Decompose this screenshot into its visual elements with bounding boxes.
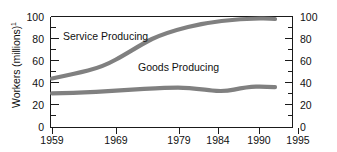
y-axis-minor-ticks-left xyxy=(51,28,56,116)
series-label-service-producing: Service Producing xyxy=(63,31,148,42)
x-axis-ticks xyxy=(53,128,299,134)
series-label-goods-producing: Goods Producing xyxy=(138,62,219,73)
plot-area xyxy=(0,0,337,152)
y-axis-minor-ticks-right xyxy=(288,28,293,116)
line-chart: Workers (millions)1 100 80 60 40 20 0 10… xyxy=(0,0,337,152)
series-line-goods-producing xyxy=(52,87,275,94)
